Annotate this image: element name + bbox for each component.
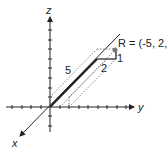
y-axis-label: y — [137, 101, 145, 113]
x-axis — [20, 34, 120, 136]
label-2: 2 — [101, 62, 107, 74]
label-1: 1 — [117, 52, 123, 64]
z-axis — [48, 17, 52, 132]
y-axis — [6, 105, 134, 109]
x-axis-label: x — [11, 137, 18, 149]
label-5: 5 — [65, 64, 71, 76]
vector-segment-5 — [50, 59, 97, 107]
coordinate-diagram: z y x R = (-5, 2, 1) 5 2 1 — [0, 0, 168, 152]
z-axis-label: z — [45, 4, 52, 16]
point-R-label: R = (-5, 2, 1) — [118, 37, 168, 49]
